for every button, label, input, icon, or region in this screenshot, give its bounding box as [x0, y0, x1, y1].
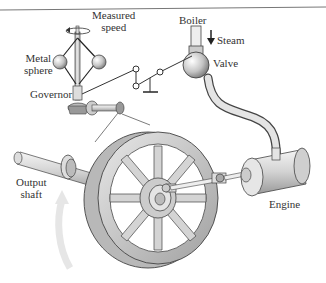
metal-sphere-right: [92, 55, 106, 69]
boiler-pipe: [189, 26, 203, 54]
label-metal-line1: Metal: [24, 52, 53, 64]
label-engine: Engine: [269, 198, 300, 210]
engine: [241, 148, 310, 196]
label-metal-line2: sphere: [24, 64, 53, 76]
metal-sphere-left: [53, 55, 67, 69]
label-output-shaft: Output shaft: [16, 176, 47, 200]
label-governor: Governor: [30, 88, 72, 100]
top-rule: [0, 7, 326, 10]
label-measured-line2: speed: [92, 21, 135, 33]
flywheel: [84, 132, 218, 268]
label-measured-speed: Measured speed: [92, 9, 135, 33]
label-output-line2: shaft: [16, 188, 47, 200]
rotation-arrow-icon: [55, 190, 70, 268]
diagram-canvas: Measured speed Metal sphere Governor Boi…: [0, 0, 326, 283]
label-measured-line1: Measured: [92, 9, 135, 21]
label-metal-sphere: Metal sphere: [24, 52, 53, 76]
label-steam: Steam: [217, 34, 245, 46]
valve-sphere: [183, 52, 209, 78]
governor: [53, 26, 106, 114]
diagram-graphic: [0, 0, 326, 283]
steam-arrow-icon: [207, 30, 215, 45]
label-boiler: Boiler: [179, 14, 207, 26]
label-output-line1: Output: [16, 176, 47, 188]
label-valve: Valve: [213, 57, 238, 69]
